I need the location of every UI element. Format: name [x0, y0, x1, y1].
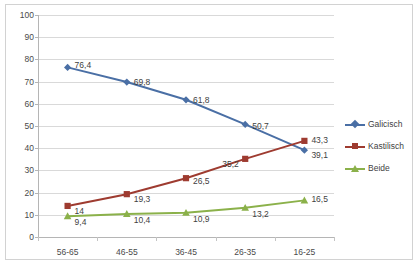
- legend-label-kastilisch: Kastilisch: [368, 141, 404, 151]
- data-point-label: 13,2: [252, 209, 269, 219]
- data-point-marker[interactable]: [64, 64, 71, 71]
- data-point-marker[interactable]: [301, 138, 307, 144]
- chart-legend: Galicisch Kastilisch Beide: [345, 113, 411, 179]
- legend-swatch-kastilisch: [345, 141, 365, 151]
- chart-container: 0102030405060708090100 56-6546-5536-4526…: [0, 0, 420, 268]
- data-point-label: 43,3: [311, 135, 328, 145]
- data-point-marker[interactable]: [182, 96, 189, 103]
- data-point-marker[interactable]: [65, 203, 71, 209]
- data-point-label: 76,4: [75, 60, 92, 70]
- data-point-label: 35,2: [222, 159, 239, 169]
- legend-swatch-galicisch: [345, 119, 365, 129]
- data-point-label: 26,5: [193, 176, 210, 186]
- data-point-label: 16,5: [311, 194, 328, 204]
- series-line-kastilisch: [68, 141, 305, 206]
- legend-item-beide[interactable]: Beide: [345, 157, 411, 179]
- data-point-marker[interactable]: [242, 156, 248, 162]
- data-point-label: 69,8: [134, 77, 151, 87]
- data-point-label: 9,4: [75, 217, 87, 227]
- legend-label-beide: Beide: [368, 163, 390, 173]
- legend-item-kastilisch[interactable]: Kastilisch: [345, 135, 411, 157]
- data-point-label: 19,3: [134, 194, 151, 204]
- legend-label-galicisch: Galicisch: [368, 119, 402, 129]
- data-point-label: 61,8: [193, 95, 210, 105]
- data-point-marker[interactable]: [124, 191, 130, 197]
- data-point-marker[interactable]: [123, 78, 130, 85]
- data-point-label: 10,4: [134, 215, 151, 225]
- data-point-label: 14: [75, 206, 84, 216]
- data-point-marker[interactable]: [242, 121, 249, 128]
- legend-swatch-beide: [345, 163, 365, 173]
- data-point-marker[interactable]: [301, 147, 308, 154]
- data-point-label: 10,9: [193, 214, 210, 224]
- data-point-label: 50,7: [252, 121, 269, 131]
- data-point-marker[interactable]: [183, 175, 189, 181]
- data-point-label: 39,1: [311, 150, 328, 160]
- series-line-galicisch: [68, 67, 305, 150]
- legend-item-galicisch[interactable]: Galicisch: [345, 113, 411, 135]
